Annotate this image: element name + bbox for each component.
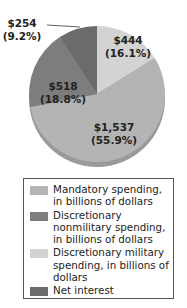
legend-swatch [30, 212, 48, 221]
legend-item-discretionary-nonmilitary: Discretionary nonmilitary spending, in b… [30, 209, 169, 246]
slice-value-label: $254 [7, 17, 36, 29]
slice-percent-label: (55.9%) [91, 134, 137, 146]
legend-item-mandatory: Mandatory spending, in billions of dolla… [30, 183, 169, 208]
slice-value-label: $518 [48, 80, 77, 92]
pie-chart: $444(16.1%)$1,537(55.9%)$518(18.8%)$254(… [0, 0, 187, 175]
legend-label: Discretionary nonmilitary spending, in b… [53, 209, 169, 246]
legend-swatch [30, 287, 48, 296]
slice-percent-label: (18.8%) [40, 93, 86, 105]
legend-item-net-interest: Net interest [30, 284, 169, 296]
legend-item-discretionary-military: Discretionary military spending, in bill… [30, 246, 169, 283]
slice-percent-label: (9.2%) [3, 30, 42, 42]
legend-label: Mandatory spending, in billions of dolla… [53, 183, 169, 208]
legend-label: Net interest [53, 284, 114, 296]
legend-swatch [30, 186, 48, 195]
slice-percent-label: (16.1%) [105, 47, 151, 59]
chart-legend: Mandatory spending, in billions of dolla… [23, 178, 174, 299]
slice-value-label: $1,537 [94, 121, 135, 133]
legend-swatch [30, 249, 48, 258]
slice-value-label: $444 [113, 34, 142, 46]
legend-label: Discretionary military spending, in bill… [53, 246, 169, 283]
net-interest-leader-line [47, 25, 80, 27]
